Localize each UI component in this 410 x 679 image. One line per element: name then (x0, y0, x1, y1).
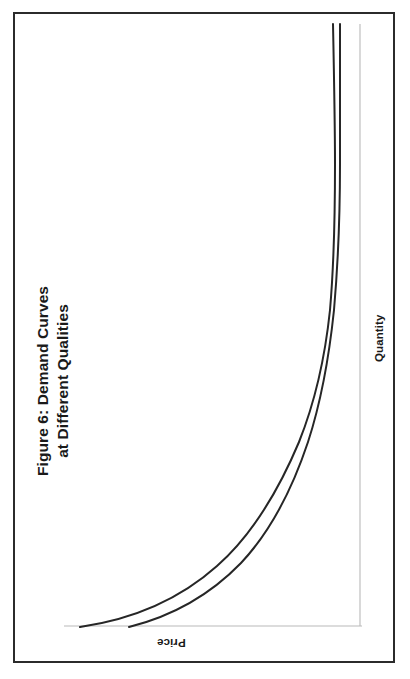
figure-canvas: Figure 6: Demand Curves at Different Qua… (15, 14, 397, 665)
chart-title-line-2: at Different Qualities (53, 286, 73, 476)
x-axis-label: Quantity (373, 315, 385, 362)
demand-curve-low-quality (129, 24, 340, 627)
demand-curve-high-quality (80, 24, 335, 627)
page-border: Figure 6: Demand Curves at Different Qua… (13, 12, 395, 663)
scanned-page: Figure 6: Demand Curves at Different Qua… (0, 0, 410, 679)
chart-title-line-1: Figure 6: Demand Curves (33, 286, 53, 476)
y-axis-label: Price (157, 637, 186, 649)
chart-title: Figure 6: Demand Curves at Different Qua… (33, 286, 73, 476)
